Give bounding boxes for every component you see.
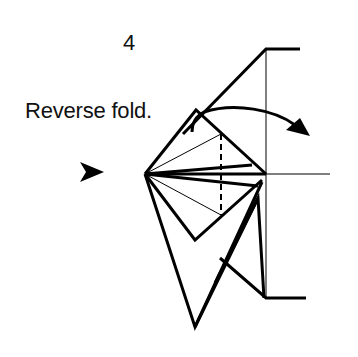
push-arrow-icon <box>80 162 104 182</box>
reference-lines <box>266 49 330 298</box>
origami-diagram <box>0 0 358 357</box>
radial-creases <box>145 134 266 215</box>
paper-outline <box>145 49 306 327</box>
